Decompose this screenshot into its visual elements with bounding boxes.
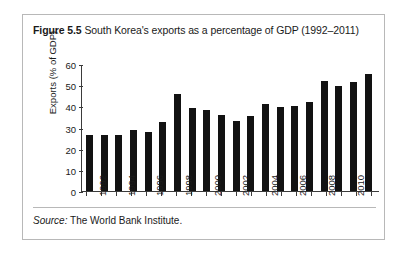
y-axis-title: Exports (% of GDP) bbox=[47, 18, 58, 128]
source-divider bbox=[33, 207, 376, 208]
bar bbox=[86, 135, 93, 191]
y-axis-tick-label: 20 bbox=[65, 144, 76, 155]
bar bbox=[174, 94, 181, 191]
y-axis-tick-label: 50 bbox=[65, 81, 76, 92]
bar bbox=[233, 121, 240, 191]
chart-axes bbox=[81, 65, 376, 192]
y-axis-tick-label: 30 bbox=[65, 123, 76, 134]
source-note: Source: The World Bank Institute. bbox=[33, 215, 182, 226]
y-axis-tick-labels: 0102030405060 bbox=[57, 65, 79, 192]
x-axis-tick-label: 1996 bbox=[154, 175, 165, 196]
x-axis-tick-label: 2002 bbox=[240, 175, 251, 196]
figure-container: Figure 5.5 South Korea's exports as a pe… bbox=[22, 14, 385, 240]
x-axis-tick-label: 2000 bbox=[212, 175, 223, 196]
figure-caption: South Korea's exports as a percentage of… bbox=[84, 24, 358, 36]
bar-series bbox=[82, 64, 376, 191]
x-axis-tick-label: 1994 bbox=[126, 175, 137, 196]
source-text: The World Bank Institute. bbox=[70, 215, 182, 226]
bar bbox=[145, 132, 152, 191]
y-axis-tick-label: 10 bbox=[65, 165, 76, 176]
y-axis-tick-label: 0 bbox=[71, 187, 76, 198]
y-axis-tick-label: 60 bbox=[65, 60, 76, 71]
bar bbox=[203, 110, 210, 191]
chart-plot-area: Exports (% of GDP) 0102030405060 1992199… bbox=[23, 45, 386, 203]
y-axis-tick-label: 40 bbox=[65, 102, 76, 113]
x-axis-tick-label: 2010 bbox=[355, 175, 366, 196]
bar bbox=[262, 104, 269, 191]
x-axis-tick-label: 1998 bbox=[183, 175, 194, 196]
source-label: Source: bbox=[33, 215, 67, 226]
x-axis-tick-label: 2008 bbox=[326, 175, 337, 196]
x-axis-tick-label: 1992 bbox=[97, 175, 108, 196]
bar bbox=[115, 135, 122, 191]
bar bbox=[365, 74, 372, 191]
x-axis-tick-label: 2006 bbox=[297, 175, 308, 196]
x-axis-tick-label: 2004 bbox=[269, 175, 280, 196]
figure-title: Figure 5.5 South Korea's exports as a pe… bbox=[33, 24, 359, 36]
